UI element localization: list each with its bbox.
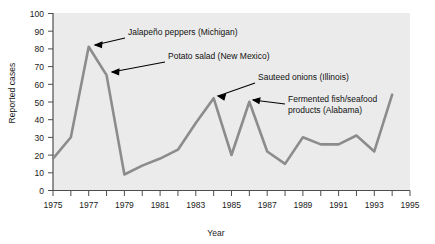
- y-tick-label-40: 40: [18, 115, 44, 125]
- y-tick-label-10: 10: [18, 168, 44, 178]
- y-tick-label-50: 50: [18, 98, 44, 108]
- x-tick-label-1977: 1977: [69, 200, 109, 210]
- y-tick-label-90: 90: [18, 27, 44, 37]
- y-axis-ticks: [48, 14, 53, 191]
- y-tick-label-80: 80: [18, 44, 44, 54]
- x-tick-label-1991: 1991: [319, 200, 359, 210]
- x-tick-label-1993: 1993: [354, 200, 394, 210]
- chart-figure: 100 90 80 70 60 50 40 30 20 10 0 1975 19…: [0, 0, 435, 244]
- x-tick-label-1975: 1975: [33, 200, 73, 210]
- x-tick-label-1983: 1983: [176, 200, 216, 210]
- y-tick-label-30: 30: [18, 133, 44, 143]
- y-tick-label-60: 60: [18, 80, 44, 90]
- x-tick-label-1989: 1989: [283, 200, 323, 210]
- x-axis-ticks: [53, 191, 410, 197]
- annotation-sauteed-onions: Sauteed onions (Illinois): [258, 72, 349, 83]
- annotation-jalapeno-peppers: Jalapeño peppers (Michigan): [128, 27, 238, 38]
- x-tick-label-1987: 1987: [247, 200, 287, 210]
- x-tick-label-1981: 1981: [140, 200, 180, 210]
- y-tick-label-70: 70: [18, 62, 44, 72]
- y-tick-label-20: 20: [18, 151, 44, 161]
- x-axis-title: Year: [186, 228, 246, 238]
- x-tick-label-1995: 1995: [390, 200, 430, 210]
- annotation-fermented-fish-line-2: products (Alabama): [288, 105, 362, 116]
- y-tick-label-100: 100: [18, 9, 44, 19]
- annotation-fermented-fish-line-1: Fermented fish/seafood: [288, 94, 377, 105]
- x-tick-label-1985: 1985: [212, 200, 252, 210]
- x-tick-label-1979: 1979: [104, 200, 144, 210]
- y-tick-label-0: 0: [18, 186, 44, 196]
- annotation-potato-salad: Potato salad (New Mexico): [168, 51, 270, 62]
- y-axis-title: Reported cases: [7, 57, 17, 129]
